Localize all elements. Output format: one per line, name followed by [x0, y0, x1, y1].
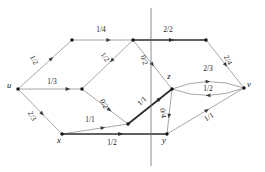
arrowhead-z-v [206, 80, 211, 84]
node-label-u: u [7, 81, 11, 90]
arrowhead-x-n [100, 126, 105, 130]
arrowhead-x-y [118, 132, 123, 136]
edge-label-v-z: 1/2 [203, 85, 213, 93]
node-c[interactable] [204, 38, 207, 41]
node-label-v: v [247, 80, 251, 89]
edge-u-x [18, 89, 62, 134]
diagram-canvas [0, 0, 265, 172]
node-v[interactable] [242, 86, 245, 89]
arrowhead-a-b [106, 38, 111, 42]
node-n[interactable] [126, 122, 129, 125]
edge-n-z [128, 89, 172, 124]
node-z[interactable] [170, 87, 173, 90]
edge-label-b-c: 2/2 [163, 26, 173, 34]
edge-label-b-z: 0/2 [139, 54, 149, 65]
flow-network-figure: 1/21/42/22/41/21/30/20/21/12/31/11/20/42… [0, 0, 265, 172]
edge-label-u-m: 1/3 [47, 78, 57, 86]
edge-u-a [18, 40, 72, 89]
node-a[interactable] [70, 38, 73, 41]
edge-x-n [62, 124, 128, 134]
node-label-x: x [57, 136, 61, 145]
edge-label-z-y: 0/4 [158, 108, 167, 119]
edge-label-x-n: 1/1 [85, 116, 95, 124]
node-m[interactable] [80, 87, 83, 90]
edge-label-z-v: 2/3 [203, 65, 213, 73]
arrowhead-b-c [169, 38, 174, 42]
edge-label-x-y: 1/2 [107, 139, 117, 147]
edge-z-y [167, 89, 172, 134]
edge-label-a-b: 1/4 [96, 26, 106, 34]
node-u[interactable] [16, 87, 19, 90]
arrowhead-u-m [66, 87, 71, 91]
arrowhead-v-z [206, 94, 211, 98]
node-label-z: z [167, 72, 170, 81]
edge-b-m [82, 40, 133, 89]
node-b[interactable] [131, 38, 134, 41]
node-label-y: y [162, 136, 166, 145]
